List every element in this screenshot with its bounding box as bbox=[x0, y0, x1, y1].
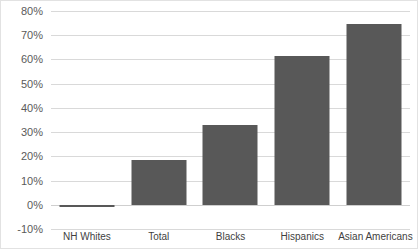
y-axis-tick-label: 80% bbox=[0, 6, 43, 17]
y-axis-tick-label: 40% bbox=[0, 102, 43, 113]
bar-chart: 80%70%60%50%40%30%20%10%0%-10% NH Whites… bbox=[0, 0, 418, 249]
y-axis-tick-label: 20% bbox=[0, 151, 43, 162]
bar-slot bbox=[123, 11, 195, 229]
y-axis-tick-label: 0% bbox=[0, 199, 43, 210]
x-axis-category-label: Asian Americans bbox=[338, 232, 410, 242]
bar-slot bbox=[195, 11, 267, 229]
y-axis-tick-label: -10% bbox=[0, 224, 43, 235]
bars-group bbox=[51, 11, 410, 229]
bar-slot bbox=[51, 11, 123, 229]
bar bbox=[131, 160, 186, 205]
x-axis-category-label: Hispanics bbox=[266, 232, 338, 242]
bar-slot bbox=[266, 11, 338, 229]
x-axis-category-label: Total bbox=[123, 232, 195, 242]
gridline bbox=[51, 229, 410, 230]
y-axis-tick-label: 30% bbox=[0, 127, 43, 138]
y-axis-tick-label: 50% bbox=[0, 78, 43, 89]
bar-slot bbox=[338, 11, 410, 229]
bar bbox=[347, 24, 402, 204]
bar bbox=[275, 56, 330, 205]
bar bbox=[203, 125, 258, 205]
bar bbox=[59, 205, 114, 207]
y-axis-tick-label: 60% bbox=[0, 54, 43, 65]
y-axis-tick-label: 10% bbox=[0, 175, 43, 186]
y-axis-tick-label: 70% bbox=[0, 30, 43, 41]
x-axis-category-label: NH Whites bbox=[51, 232, 123, 242]
x-axis-category-label: Blacks bbox=[195, 232, 267, 242]
